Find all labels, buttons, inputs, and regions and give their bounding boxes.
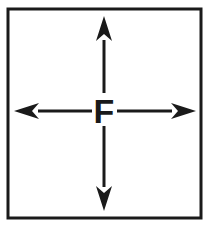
arrow-right-head: [171, 103, 196, 119]
arrow-left: [14, 103, 92, 119]
force-label: F: [94, 92, 115, 130]
arrow-left-head: [14, 103, 39, 119]
force-diagram-figure: F: [0, 0, 215, 229]
arrow-down: [96, 126, 112, 211]
arrow-down-head: [96, 186, 112, 211]
arrow-right: [117, 103, 196, 119]
arrow-up: [96, 16, 112, 96]
arrow-up-head: [96, 16, 112, 41]
diagram-canvas: F: [0, 0, 215, 229]
